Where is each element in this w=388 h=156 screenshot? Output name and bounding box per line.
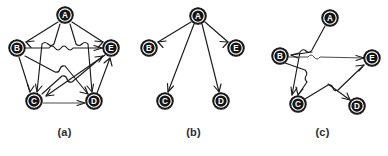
edge-a-c [292,26,325,95]
node-d-label: D [354,102,360,111]
arrowhead-b-c [28,84,35,92]
arrowhead-a-e [220,42,228,48]
panel-a: A B E C D (a) [0,0,129,156]
arrowhead-c-e [356,65,364,71]
node-a[interactable]: A [57,7,73,23]
edge-a-c [37,24,60,92]
edge-a-d [202,24,219,92]
edge-a-e [72,22,103,42]
graph-figure: A B E C D (a) [0,0,388,156]
node-a[interactable]: A [190,8,206,24]
node-b-label: B [14,44,20,53]
edge-b-e [289,55,364,59]
node-e-label: E [108,44,114,53]
node-e[interactable]: E [228,40,244,56]
panel-b-caption: (b) [129,126,258,138]
panel-a-caption: (a) [0,126,129,138]
node-c[interactable]: C [290,96,306,112]
panel-c: A B E C D (c) [258,0,387,156]
edge-a-b [26,22,58,42]
node-d[interactable]: D [86,93,102,109]
node-d-label: D [91,97,97,106]
edge-a-b [158,22,191,42]
node-a[interactable]: A [322,10,338,26]
arrowhead-a-b [158,41,166,48]
node-d[interactable]: D [213,93,229,109]
node-c[interactable]: C [157,93,173,109]
edge-e-c [46,55,105,96]
edge-e-d [328,84,350,100]
node-c-label: C [31,97,37,106]
node-e-label: E [233,44,239,53]
node-a-label: A [327,14,333,23]
panel-c-caption: (c) [258,126,387,138]
node-b-label: B [146,44,152,53]
arrowhead-a-c [36,84,43,92]
panel-a-graph: A B E C D [0,0,129,126]
edge-b-e [26,46,102,50]
node-b[interactable]: B [9,40,25,56]
node-e[interactable]: E [103,40,119,56]
node-c-label: C [295,100,301,109]
panel-b-graph: A B E C D [129,0,258,126]
node-c-label: C [162,97,168,106]
node-b[interactable]: B [141,40,157,56]
node-d-label: D [218,97,224,106]
edge-a-d [70,24,92,92]
node-e[interactable]: E [364,50,380,66]
panel-c-graph: A B E C D [258,0,387,126]
edge-a-e [205,22,228,42]
node-a-label: A [62,11,68,20]
node-a-label: A [195,12,201,21]
panel-b: A B E C D (b) [129,0,258,156]
node-e-label: E [369,54,375,63]
node-b-label: B [277,52,283,61]
arrowhead-a-d [87,84,94,92]
node-d[interactable]: D [349,98,365,114]
edge-c-e [305,65,364,99]
arrowhead-a-b [26,41,34,48]
node-b[interactable]: B [272,48,288,64]
node-c[interactable]: C [26,93,42,109]
